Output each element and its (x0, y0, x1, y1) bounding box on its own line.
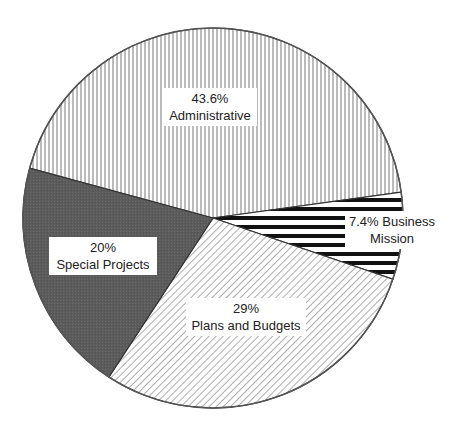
special-percent: 20% (53, 239, 153, 256)
label-administrative: 43.6% Administrative (163, 88, 257, 126)
business-name-cont: Mission (349, 230, 435, 247)
label-special-projects: 20% Special Projects (49, 237, 157, 275)
label-business-mission: 7.4% Business Mission (345, 211, 439, 249)
special-name: Special Projects (53, 256, 153, 273)
administrative-name: Administrative (167, 107, 253, 124)
plans-name: Plans and Budgets (190, 317, 302, 334)
business-percent-name: 7.4% Business (349, 213, 435, 230)
administrative-percent: 43.6% (167, 90, 253, 107)
plans-percent: 29% (190, 300, 302, 317)
label-plans-and-budgets: 29% Plans and Budgets (186, 298, 306, 336)
